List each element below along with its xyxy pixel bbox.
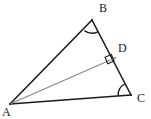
vertex-label-d: D: [118, 42, 127, 54]
angle-arc-c: [118, 84, 125, 96]
vertex-label-b: B: [99, 2, 107, 14]
segment-ab: [10, 20, 92, 104]
geometry-canvas: [0, 0, 151, 119]
segment-bc: [92, 20, 131, 95]
vertex-dot-d: [114, 57, 116, 59]
geometry-figure: A B D C: [0, 0, 151, 119]
vertex-dot-b: [91, 19, 93, 21]
vertex-dot-c: [130, 94, 132, 96]
vertex-label-a: A: [2, 106, 11, 118]
vertex-label-c: C: [137, 92, 145, 104]
angle-arc-b: [84, 31, 97, 34]
